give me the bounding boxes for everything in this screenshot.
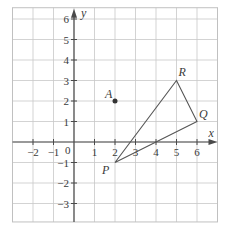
point-label-r: R (178, 65, 187, 79)
grid-lines (13, 8, 218, 222)
point-a-dot-icon (113, 99, 118, 104)
x-tick-label: 5 (174, 146, 180, 158)
point-label-a: A (104, 87, 113, 101)
y-tick-label: 1 (64, 116, 70, 128)
x-tick-label: 1 (92, 146, 98, 158)
x-tick-label: 2 (112, 146, 118, 158)
y-tick-label: 3 (64, 75, 70, 87)
origin-label: 0 (65, 144, 71, 156)
y-tick-label: −1 (57, 157, 69, 169)
y-axis-arrow-icon (71, 9, 77, 18)
y-tick-label: 4 (64, 54, 70, 66)
y-tick-label: 6 (64, 13, 70, 25)
x-tick-label: 6 (194, 146, 200, 158)
point-label-q: Q (199, 107, 208, 121)
y-tick-label: −2 (57, 177, 69, 189)
x-axis-label: x (208, 126, 215, 140)
x-tick-label: 4 (153, 146, 159, 158)
x-tick-label: −2 (27, 146, 39, 158)
y-tick-label: 5 (64, 34, 70, 46)
coordinate-grid: −2−1123456654321−1−2−3 APQR x y 0 (0, 0, 229, 232)
point-label-p: P (101, 163, 110, 177)
y-tick-label: 2 (64, 95, 70, 107)
y-tick-label: −3 (57, 198, 69, 210)
y-axis-label: y (80, 6, 87, 20)
